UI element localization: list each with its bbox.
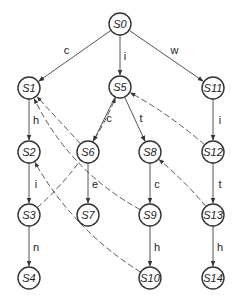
goto-edge-s8-s9: c — [150, 163, 160, 203]
goto-edge-s6-s7: e — [88, 163, 98, 203]
state-label: S11 — [204, 82, 223, 94]
state-node-s14: S14 — [202, 267, 224, 289]
state-node-s4: S4 — [18, 267, 40, 289]
state-label: S0 — [113, 18, 127, 30]
goto-edge-s9-s10: h — [150, 226, 160, 266]
automaton-diagram: ciwhincetchith S0S1S2S3S4S5S6S7S8S9S10S1… — [0, 0, 242, 300]
edge-label: h — [217, 241, 223, 253]
state-node-s10: S10 — [139, 267, 161, 289]
goto-edges: ciwhincetchith — [29, 30, 223, 266]
failure-edge-s6-s1 — [37, 97, 80, 144]
edge-label: t — [218, 178, 221, 190]
state-label: S12 — [203, 146, 223, 158]
goto-edge-s5-s6: c — [93, 97, 115, 141]
failure-edge-s13-s8 — [159, 160, 206, 207]
state-label: S8 — [143, 146, 157, 158]
failure-edge-s3-s5 — [37, 98, 115, 208]
edge-label: c — [154, 178, 160, 190]
goto-edge-s12-s13: t — [213, 163, 222, 203]
state-node-s9: S9 — [139, 204, 161, 226]
edge-label: i — [219, 114, 221, 126]
state-node-s3: S3 — [18, 204, 40, 226]
state-label: S1 — [22, 82, 35, 94]
goto-arrow — [129, 30, 203, 81]
state-node-s11: S11 — [202, 77, 224, 99]
edge-label: c — [106, 112, 112, 124]
edge-label: t — [139, 112, 142, 124]
state-label: S6 — [81, 146, 95, 158]
state-node-s1: S1 — [18, 77, 40, 99]
goto-edge-s13-s14: h — [213, 226, 223, 266]
state-label: S13 — [203, 209, 223, 221]
state-node-s2: S2 — [18, 141, 40, 163]
edge-label: e — [92, 178, 98, 190]
goto-arrow — [39, 30, 111, 81]
goto-edge-s3-s4: n — [29, 226, 39, 266]
goto-edge-s5-s8: t — [125, 97, 145, 141]
state-label: S4 — [22, 272, 35, 284]
goto-edge-s2-s3: i — [29, 163, 37, 203]
edge-label: c — [64, 44, 70, 56]
nodes: S0S1S2S3S4S5S6S7S8S9S10S11S12S13S14 — [18, 13, 224, 289]
goto-edge-s0-s5: i — [120, 35, 126, 75]
state-label: S2 — [22, 146, 35, 158]
goto-edge-s0-s1: c — [39, 30, 111, 81]
state-label: S5 — [113, 81, 127, 93]
goto-arrow — [93, 97, 115, 141]
state-node-s13: S13 — [202, 204, 224, 226]
state-node-s12: S12 — [202, 141, 224, 163]
state-label: S10 — [140, 272, 160, 284]
edge-label: h — [154, 241, 160, 253]
edge-label: h — [33, 114, 39, 126]
edge-label: i — [35, 178, 37, 190]
state-node-s0: S0 — [109, 13, 131, 35]
goto-edge-s11-s12: i — [213, 99, 221, 140]
state-label: S3 — [22, 209, 36, 221]
state-node-s8: S8 — [139, 141, 161, 163]
state-label: S9 — [143, 209, 156, 221]
state-label: S7 — [81, 209, 95, 221]
state-node-s7: S7 — [77, 204, 99, 226]
failure-edges — [34, 93, 206, 272]
goto-edge-s0-s11: w — [129, 30, 203, 81]
edge-label: n — [33, 241, 39, 253]
state-node-s6: S6 — [77, 141, 99, 163]
edge-label: i — [124, 50, 126, 62]
state-node-s5: S5 — [109, 76, 131, 98]
state-label: S14 — [203, 272, 223, 284]
edge-label: w — [170, 44, 179, 56]
